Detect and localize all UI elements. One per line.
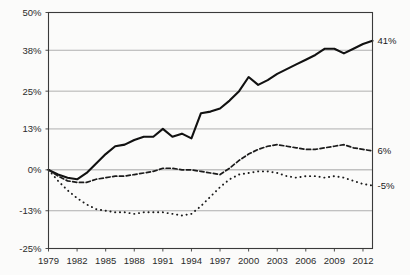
- y-axis-tick-labels: -25%-13%0%13%25%38%50%: [19, 7, 42, 254]
- x-axis-tick-label: 2003: [267, 255, 288, 266]
- x-axis-tick-label: 2000: [238, 255, 259, 266]
- data-series-group: [49, 41, 373, 216]
- series-end-label-bottom: -5%: [378, 180, 395, 191]
- y-axis-tick-label: -13%: [19, 205, 42, 216]
- x-axis-tick-label: 2009: [324, 255, 345, 266]
- x-axis-tick-label: 1997: [209, 255, 230, 266]
- y-axis-tick-label: -25%: [19, 243, 42, 254]
- series-end-label-top: 41%: [378, 35, 398, 46]
- plot-frame: [49, 13, 373, 249]
- y-axis-tick-label: 25%: [22, 86, 42, 97]
- x-axis-tick-label: 2006: [295, 255, 316, 266]
- data-series-top: [49, 41, 373, 179]
- chart-container: -25%-13%0%13%25%38%50% 19791982198519881…: [0, 0, 410, 275]
- gridlines-group: [49, 50, 373, 210]
- line-chart: -25%-13%0%13%25%38%50% 19791982198519881…: [0, 0, 410, 275]
- x-axis-tick-labels: 1979198219851988199119941997200020032006…: [38, 255, 374, 266]
- y-axis-tick-label: 50%: [22, 7, 42, 18]
- y-axis-tick-label: 13%: [22, 123, 42, 134]
- series-end-label-middle: 6%: [378, 145, 392, 156]
- x-axis-tick-label: 1979: [38, 255, 59, 266]
- series-end-labels: 41%6%-5%: [378, 35, 398, 191]
- x-axis-tick-label: 1985: [95, 255, 116, 266]
- axis-tick-marks: [46, 13, 363, 252]
- x-axis-tick-label: 1982: [67, 255, 88, 266]
- y-axis-tick-label: 0%: [28, 164, 42, 175]
- x-axis-tick-label: 2012: [352, 255, 373, 266]
- data-series-bottom: [49, 170, 373, 216]
- x-axis-tick-label: 1994: [181, 255, 202, 266]
- y-axis-tick-label: 38%: [22, 45, 42, 56]
- x-axis-tick-label: 1991: [152, 255, 173, 266]
- x-axis-tick-label: 1988: [124, 255, 145, 266]
